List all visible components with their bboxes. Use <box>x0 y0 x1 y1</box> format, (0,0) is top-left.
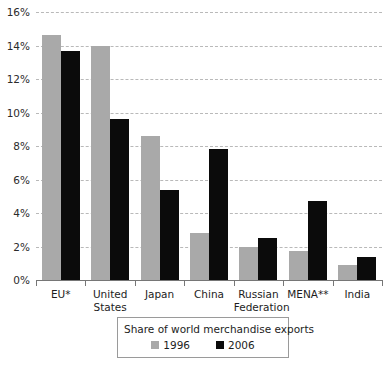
legend-entry: 1996 <box>151 339 190 351</box>
x-axis-category-label: Japan <box>135 288 184 301</box>
x-axis-category-label: China <box>184 288 233 301</box>
y-axis-tick-label: 10% <box>0 107 30 119</box>
bar <box>42 35 61 280</box>
x-axis-line <box>36 280 382 281</box>
bar <box>209 149 228 280</box>
y-axis-tick-label: 0% <box>0 274 30 286</box>
bar <box>160 190 179 280</box>
x-axis-tick <box>184 280 185 286</box>
bars-layer <box>36 12 382 280</box>
bar <box>308 201 327 280</box>
legend-label: 1996 <box>163 339 190 351</box>
x-axis-category-label: India <box>333 288 382 301</box>
bar <box>141 136 160 280</box>
bar <box>239 247 258 281</box>
y-axis-tick-label: 14% <box>0 40 30 52</box>
legend-entry: 2006 <box>216 339 255 351</box>
y-axis-tick-label: 12% <box>0 73 30 85</box>
x-axis-tick <box>382 280 383 286</box>
bar <box>357 257 376 280</box>
x-axis-category-label: Russian Federation <box>234 288 283 313</box>
legend-swatch-icon <box>216 341 224 349</box>
x-axis-category-label: United States <box>85 288 134 313</box>
plot-area <box>36 12 382 280</box>
legend-swatch-icon <box>151 341 159 349</box>
x-axis-tick <box>234 280 235 286</box>
y-axis-tick-label: 8% <box>0 140 30 152</box>
x-axis-tick <box>36 280 37 286</box>
x-axis-tick <box>283 280 284 286</box>
legend-label: 2006 <box>228 339 255 351</box>
bar <box>190 233 209 280</box>
bar <box>338 265 357 280</box>
x-axis-tick <box>85 280 86 286</box>
bar <box>258 238 277 280</box>
y-axis-tick-label: 16% <box>0 6 30 18</box>
y-axis-tick-label: 4% <box>0 207 30 219</box>
x-axis-category-label: EU* <box>36 288 85 301</box>
y-axis-tick-label: 2% <box>0 241 30 253</box>
legend-title: Share of world merchandise exports <box>124 323 282 335</box>
bar <box>110 119 129 280</box>
x-axis-tick <box>135 280 136 286</box>
bar <box>91 46 110 281</box>
x-axis-category-label: MENA** <box>283 288 332 301</box>
y-axis-tick-label: 6% <box>0 174 30 186</box>
legend-entries: 19962006 <box>124 339 282 351</box>
x-axis-tick <box>333 280 334 286</box>
bar <box>61 51 80 280</box>
bar-chart: 0%2%4%6%8%10%12%14%16% EU*United StatesJ… <box>0 0 392 366</box>
bar <box>289 251 308 280</box>
legend: Share of world merchandise exports 19962… <box>117 317 289 358</box>
